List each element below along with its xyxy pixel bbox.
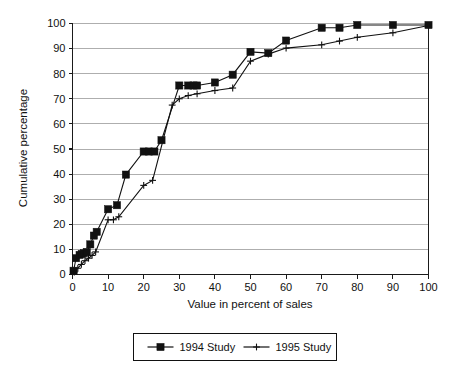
data-point-0-14 [151, 148, 158, 155]
grid-lines [73, 24, 429, 250]
data-point-1-11 [149, 177, 156, 184]
data-point-0-25 [318, 24, 325, 31]
y-tick-label-80: 80 [53, 68, 65, 80]
data-point-1-23 [354, 34, 361, 41]
data-point-1-16 [212, 87, 219, 94]
data-point-0-22 [247, 48, 254, 55]
cumulative-percentage-chart: 0102030405060708090100 01020304050607080… [0, 0, 469, 381]
data-point-1-8 [110, 216, 117, 223]
x-tick-label-70: 70 [316, 281, 328, 293]
data-point-0-20 [211, 79, 218, 86]
data-point-0-26 [336, 24, 343, 31]
data-point-0-24 [283, 37, 290, 44]
data-point-1-15 [194, 90, 201, 97]
data-point-0-5 [83, 248, 90, 255]
x-tick-label-100: 100 [419, 281, 437, 293]
data-point-0-21 [229, 71, 236, 78]
y-axis-title: Cumulative percentage [17, 89, 29, 207]
data-point-1-18 [247, 58, 254, 65]
data-point-1-21 [318, 41, 325, 48]
data-point-0-9 [105, 206, 112, 213]
x-axis-title: Value in percent of sales [187, 298, 312, 310]
y-tick-label-70: 70 [53, 93, 65, 105]
data-point-0-19 [194, 82, 201, 89]
y-tick-label-90: 90 [53, 42, 65, 54]
data-point-1-17 [229, 85, 236, 92]
y-tick-label-20: 20 [53, 218, 65, 230]
y-tick-label-30: 30 [53, 193, 65, 205]
x-tick-label-80: 80 [351, 281, 363, 293]
x-tick-label-60: 60 [280, 281, 292, 293]
data-point-1-20 [283, 45, 290, 52]
data-point-1-14 [185, 92, 192, 99]
y-tick-marks [69, 24, 73, 275]
data-point-0-27 [354, 21, 361, 28]
legend-label-1: 1994 Study [180, 341, 236, 353]
data-point-0-10 [113, 202, 120, 209]
data-point-1-24 [390, 29, 397, 36]
data-point-0-16 [176, 82, 183, 89]
y-tick-labels: 0102030405060708090100 [47, 17, 65, 280]
y-tick-label-40: 40 [53, 168, 65, 180]
chart-canvas: 0102030405060708090100 01020304050607080… [0, 0, 469, 381]
x-tick-marks [73, 275, 429, 279]
data-point-0-8 [93, 228, 100, 235]
x-tick-label-20: 20 [138, 281, 150, 293]
y-tick-label-60: 60 [53, 118, 65, 130]
legend-marker-square [157, 343, 164, 350]
y-tick-label-100: 100 [47, 17, 65, 29]
legend: 1994 Study1995 Study [134, 334, 337, 361]
y-tick-label-0: 0 [59, 268, 65, 280]
x-tick-label-50: 50 [244, 281, 256, 293]
y-tick-label-10: 10 [53, 243, 65, 255]
data-point-1-22 [336, 38, 343, 45]
data-point-0-28 [389, 21, 396, 28]
data-point-0-11 [122, 171, 129, 178]
x-tick-label-40: 40 [209, 281, 221, 293]
x-tick-label-0: 0 [69, 281, 75, 293]
legend-label-2: 1995 Study [276, 341, 332, 353]
x-tick-label-10: 10 [102, 281, 114, 293]
data-point-0-6 [87, 241, 94, 248]
x-tick-labels: 0102030405060708090100 [69, 281, 437, 293]
x-tick-label-30: 30 [173, 281, 185, 293]
y-tick-label-50: 50 [53, 143, 65, 155]
x-tick-label-90: 90 [387, 281, 399, 293]
